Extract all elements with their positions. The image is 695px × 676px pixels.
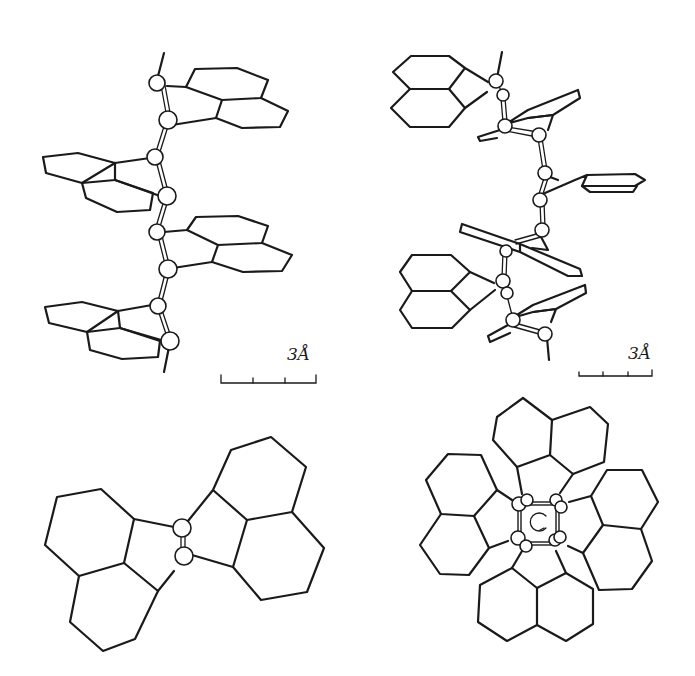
pendant-ring-group bbox=[43, 153, 160, 212]
panel-bottom-left bbox=[45, 437, 324, 651]
pendant-ring-group bbox=[493, 398, 608, 494]
molecular-structure-figure bbox=[0, 0, 695, 676]
backbone-atoms bbox=[511, 494, 567, 552]
pendant-ring-group-edge bbox=[460, 224, 582, 276]
backbone-atoms bbox=[173, 519, 193, 565]
backbone-chain bbox=[155, 53, 172, 372]
panel-bottom-right bbox=[420, 398, 658, 641]
backbone-atoms bbox=[147, 75, 179, 350]
scale-label-top-left: 3Å bbox=[287, 344, 310, 364]
pendant-ring-group bbox=[164, 216, 292, 272]
pendant-ring-group-edge bbox=[545, 174, 645, 193]
pendant-ring-group bbox=[45, 302, 168, 359]
panel-top-right bbox=[391, 52, 652, 376]
pendant-ring-group bbox=[45, 489, 174, 651]
pendant-ring-group bbox=[420, 454, 512, 575]
pendant-ring-group bbox=[400, 255, 495, 328]
pendant-ring-group bbox=[167, 68, 288, 128]
pendant-ring-group bbox=[188, 437, 324, 600]
pendant-ring-group-edge bbox=[478, 90, 580, 141]
panel-top-left bbox=[43, 53, 316, 383]
pendant-ring-group bbox=[391, 56, 488, 127]
pendant-ring-group bbox=[568, 470, 658, 590]
scale-bar bbox=[579, 370, 652, 376]
pendant-ring-group bbox=[478, 551, 593, 641]
scale-bar bbox=[221, 375, 316, 383]
scale-label-top-right: 3Å bbox=[628, 343, 651, 363]
